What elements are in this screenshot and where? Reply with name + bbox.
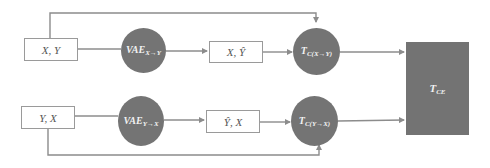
input-box-xy-label: X, Y: [42, 44, 60, 56]
classifier-y-to-x-label: TC(Y→X): [299, 115, 330, 128]
input-box-yx-label: Y, X: [39, 112, 56, 124]
classifier-x-to-y-label: TC(X→Y): [301, 45, 332, 58]
output-box-x-yhat: X, Ŷ: [209, 41, 263, 63]
output-box-yhat-x: Ŷ, X: [206, 110, 260, 133]
input-box-yx: Y, X: [21, 106, 75, 129]
combiner-tce-label: TCE: [429, 82, 445, 96]
input-box-xy: X, Y: [24, 38, 78, 61]
vae-y-to-x-label: VAEY→X: [123, 115, 158, 128]
edge-bypass-bottom: [48, 129, 319, 155]
vae-x-to-y-node: VAEX→Y: [121, 28, 166, 73]
vae-y-to-x-node: VAEY→X: [118, 96, 164, 146]
edge-tc-bottom-to-tce: [338, 120, 404, 121]
output-box-yhat-x-label: Ŷ, X: [224, 116, 242, 128]
vae-x-to-y-label: VAEX→Y: [126, 44, 161, 57]
edge-bypass-top: [50, 13, 316, 38]
output-box-x-yhat-label: X, Ŷ: [227, 46, 245, 58]
classifier-x-to-y-node: TC(X→Y): [293, 28, 340, 75]
classifier-y-to-x-node: TC(Y→X): [291, 96, 338, 146]
combiner-tce-box: TCE: [406, 42, 469, 135]
